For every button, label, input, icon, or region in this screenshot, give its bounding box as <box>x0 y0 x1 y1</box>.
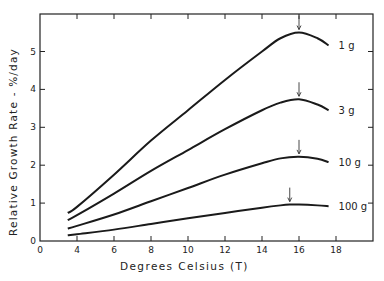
curve-100g <box>68 205 329 236</box>
peak-arrow-3g <box>297 82 301 96</box>
y-tick-label: 1 <box>30 198 36 208</box>
y-tick-label: 0 <box>30 236 36 246</box>
series-label-100g: 100 g <box>339 201 368 212</box>
x-tick-label: 16 <box>293 245 305 255</box>
y-tick-label: 3 <box>30 122 36 132</box>
y-axis-label: Relative Growth Rate - %/day <box>7 48 19 236</box>
x-tick-label: 6 <box>111 245 117 255</box>
x-tick-label: 12 <box>219 245 230 255</box>
x-tick-label: 0 <box>37 245 43 255</box>
growth-rate-chart: 04681012141618 012345 1 g3 g10 g100 g De… <box>0 0 384 281</box>
y-tick-label: 2 <box>30 160 36 170</box>
peak-arrow-10g <box>297 140 301 154</box>
curves <box>68 33 329 236</box>
x-tick-label: 8 <box>148 245 154 255</box>
x-tick-label: 4 <box>74 245 80 255</box>
series-labels: 1 g3 g10 g100 g <box>339 40 368 212</box>
peak-markers <box>288 16 301 202</box>
peak-arrow-1g <box>297 16 301 30</box>
x-tick-label: 18 <box>330 245 342 255</box>
peak-arrow-100g <box>288 188 292 202</box>
y-tick-label: 5 <box>30 47 36 57</box>
series-label-1g: 1 g <box>339 40 355 51</box>
curve-1g <box>68 33 329 213</box>
x-tick-label: 14 <box>256 245 268 255</box>
y-tick-label: 4 <box>30 84 36 94</box>
x-axis-label: Degrees Celsius (T) <box>120 260 249 272</box>
x-tick-label: 10 <box>182 245 194 255</box>
series-label-3g: 3 g <box>339 105 355 116</box>
series-label-10g: 10 g <box>339 157 361 168</box>
